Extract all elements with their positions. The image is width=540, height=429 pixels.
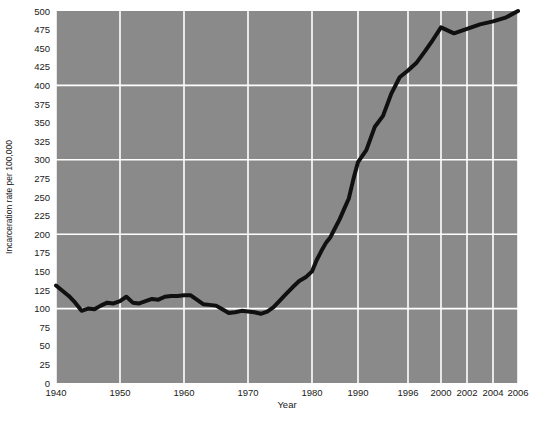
- x-tick-label-1960: 1960: [173, 387, 194, 398]
- y-tick-label-400: 400: [34, 80, 50, 91]
- y-tick-label-50: 50: [39, 340, 50, 351]
- y-tick-label-500: 500: [34, 6, 50, 17]
- x-tick-label-1940: 1940: [45, 387, 66, 398]
- y-axis-title: Incarceration rate per 100,000: [4, 140, 14, 254]
- y-tick-label-175: 175: [34, 247, 50, 258]
- y-tick-label-75: 75: [39, 322, 50, 333]
- y-tick-label-300: 300: [34, 154, 50, 165]
- y-tick-label-200: 200: [34, 229, 50, 240]
- x-tick-label-1970: 1970: [237, 387, 258, 398]
- y-tick-label-325: 325: [34, 136, 50, 147]
- y-tick-label-25: 25: [39, 359, 50, 370]
- y-tick-label-125: 125: [34, 285, 50, 296]
- x-tick-label-2004: 2004: [482, 387, 503, 398]
- x-tick-label-1980: 1980: [301, 387, 322, 398]
- line-chart: 0255075100125150175200225250275300325350…: [0, 0, 540, 429]
- x-tick-label-1996: 1996: [397, 387, 418, 398]
- y-tick-label-450: 450: [34, 43, 50, 54]
- y-tick-label-100: 100: [34, 303, 50, 314]
- x-tick-label-1990: 1990: [347, 387, 368, 398]
- y-tick-label-425: 425: [34, 61, 50, 72]
- y-tick-label-250: 250: [34, 192, 50, 203]
- x-tick-label-2000: 2000: [430, 387, 451, 398]
- x-tick-label-1950: 1950: [109, 387, 130, 398]
- x-tick-label-2002: 2002: [456, 387, 477, 398]
- plot-area-background: [56, 11, 518, 383]
- y-tick-label-475: 475: [34, 24, 50, 35]
- y-tick-label-150: 150: [34, 266, 50, 277]
- y-tick-label-225: 225: [34, 210, 50, 221]
- y-tick-label-375: 375: [34, 99, 50, 110]
- chart-container: 0255075100125150175200225250275300325350…: [0, 0, 540, 429]
- x-axis-title: Year: [277, 399, 296, 410]
- x-tick-label-2006: 2006: [507, 387, 528, 398]
- y-tick-label-275: 275: [34, 173, 50, 184]
- y-tick-label-350: 350: [34, 117, 50, 128]
